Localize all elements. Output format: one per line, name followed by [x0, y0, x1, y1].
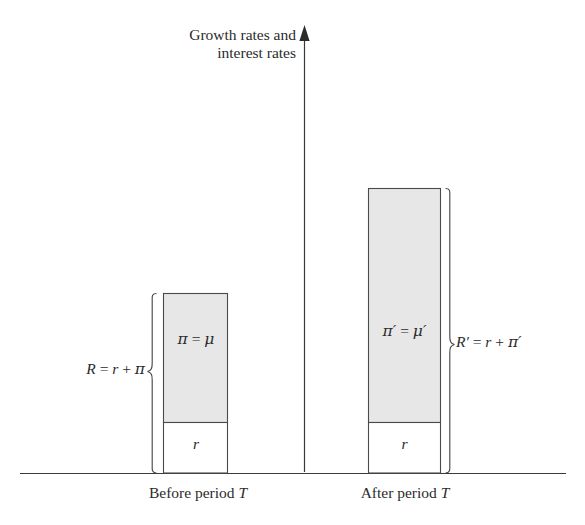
axis-title-line-2: interest rates — [0, 44, 296, 62]
bar-before-segment-inflation — [164, 294, 228, 423]
bar-after-segment-inflation — [369, 189, 441, 423]
caption-after-period-variable: T — [441, 484, 450, 501]
label-total-rate-before-lhs: R — [86, 360, 95, 377]
label-inflation-before-rhs: μ — [204, 330, 214, 348]
label-inflation-after-lhs: π′ — [383, 322, 397, 340]
label-inflation-after: π′ = μ′ — [368, 322, 441, 340]
label-total-rate-after-equals: = — [473, 333, 482, 350]
axis-title: Growth rates and interest rates — [0, 26, 296, 63]
label-total-rate-after-term1: r — [485, 333, 491, 350]
axis-title-line-1: Growth rates and — [189, 26, 296, 43]
label-inflation-before-lhs: π — [178, 330, 188, 348]
label-inflation-after-rhs: μ′ — [413, 322, 427, 340]
caption-after-period-text: After period — [361, 484, 437, 501]
caption-before-period-text: Before period — [149, 484, 235, 501]
label-real-rate-after: r — [368, 435, 441, 453]
label-total-rate-after-term2: π′ — [508, 333, 522, 351]
up-arrow-axis-icon — [299, 25, 309, 41]
label-total-rate-after-plus: + — [495, 333, 504, 350]
label-total-rate-before: R = r + π — [33, 360, 145, 378]
label-total-rate-before-equals: = — [100, 360, 109, 377]
figure-canvas — [0, 0, 585, 525]
label-real-rate-before: r — [163, 435, 229, 453]
label-total-rate-before-plus: + — [122, 360, 131, 377]
caption-before-period-variable: T — [238, 484, 247, 501]
label-total-rate-after-lhs: R′ — [456, 333, 469, 350]
label-inflation-after-equals: = — [400, 322, 409, 339]
label-inflation-before: π = μ — [163, 330, 229, 348]
caption-before-period: Before period T — [108, 484, 288, 502]
bracket-after-total — [446, 189, 455, 474]
interest-rate-decomposition-figure: Growth rates and interest rates R = r + … — [0, 0, 585, 525]
bracket-before-total — [148, 294, 157, 474]
label-inflation-before-equals: = — [192, 330, 201, 347]
label-total-rate-before-term1: r — [112, 360, 118, 377]
caption-after-period: After period T — [316, 484, 494, 502]
label-total-rate-after: R′ = r + π′ — [456, 333, 522, 351]
label-total-rate-before-term2: π — [135, 360, 145, 378]
